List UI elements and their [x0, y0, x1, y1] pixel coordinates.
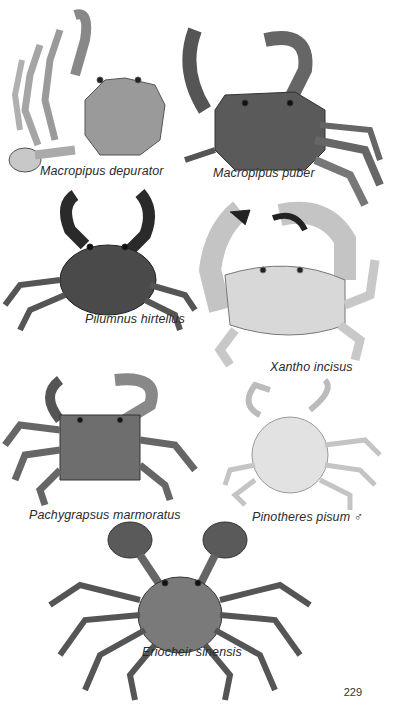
- crab-illustration-icon: [40, 515, 330, 710]
- crab-illustration-icon: [0, 0, 190, 190]
- plate-macropipus-depurator: Macropipus depurator: [0, 0, 190, 190]
- page-number: 229: [344, 686, 362, 698]
- species-caption: Eriocheir sinensis: [142, 645, 242, 659]
- book-page: Macropipus depurator Macropipus puber: [0, 0, 395, 715]
- species-caption: Macropipus depurator: [40, 164, 164, 178]
- plate-pilumnus-hirtellus: Pilumnus hirtellus: [0, 185, 200, 345]
- crab-illustration-icon: [195, 200, 395, 380]
- species-caption: Pilumnus hirtellus: [85, 312, 185, 326]
- crab-illustration-icon: [175, 0, 395, 215]
- plate-pinotheres-pisum: Pinotheres pisum ♂: [215, 375, 395, 535]
- plate-eriocheir-sinensis: Eriocheir sinensis: [40, 515, 330, 710]
- plate-pachygrapsus-marmoratus: Pachygrapsus marmoratus: [0, 370, 210, 535]
- species-caption: Macropipus puber: [213, 166, 315, 180]
- species-caption: Xantho incisus: [270, 360, 353, 374]
- plate-macropipus-puber: Macropipus puber: [175, 0, 395, 215]
- plate-xantho-incisus: Xantho incisus: [195, 200, 395, 380]
